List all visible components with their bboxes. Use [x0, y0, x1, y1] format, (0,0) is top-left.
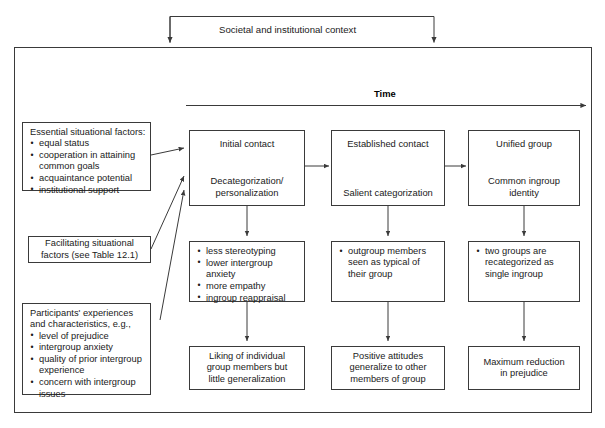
stage-box-established-contact[interactable]: Established contact Salient categorizati…: [331, 130, 445, 206]
list-item: acquaintance potential: [30, 173, 146, 184]
panel-heading-line: Participants' experiences: [30, 308, 146, 319]
result-line: Positive attitudes: [353, 351, 423, 362]
stage-subtitle-line: personalization: [190, 187, 304, 198]
list-item: less stereotyping: [197, 246, 300, 257]
result-box-column-2[interactable]: Positive attitudes generalize to other m…: [331, 346, 445, 390]
list-item: cooperation in attaining common goals: [30, 150, 146, 173]
outcome-bullet-list: outgroup members seen as typical of thei…: [339, 246, 440, 280]
result-line: little generalization: [208, 374, 285, 385]
result-line: Maximum reduction: [483, 357, 564, 368]
list-item: level of prejudice: [30, 331, 146, 342]
diagram-canvas: Societal and institutional context Time …: [0, 0, 605, 428]
result-box-column-1[interactable]: Liking of individual group members but l…: [189, 346, 305, 390]
stage-subtitle-line: identity: [469, 187, 579, 198]
panel-essential-situational-factors[interactable]: Essential situational factors: equal sta…: [22, 122, 151, 191]
stage-subtitle: Salient categorization: [332, 187, 444, 198]
list-item: ingroup reappraisal: [197, 293, 300, 304]
outcome-bullet-list: less stereotyping lower intergroup anxie…: [197, 246, 300, 304]
result-box-column-3[interactable]: Maximum reduction in prejudice: [468, 346, 580, 390]
result-line: group members but: [207, 362, 288, 373]
list-item: institutional support: [30, 185, 146, 196]
list-item: outgroup members seen as typical of thei…: [339, 246, 440, 280]
list-item: two groups are recategorized as single i…: [476, 246, 575, 280]
result-line: generalize to other: [349, 362, 426, 373]
list-item: concern with intergroup issues: [30, 377, 146, 400]
result-line: in prejudice: [500, 368, 548, 379]
time-axis-label: Time: [374, 88, 396, 99]
stage-subtitle: Decategorization/ personalization: [190, 175, 304, 198]
stage-subtitle: Common ingroup identity: [469, 175, 579, 198]
list-item: quality of prior intergroup experience: [30, 354, 146, 377]
panel-facilitating-situational-factors[interactable]: Facilitating situational factors (see Ta…: [28, 236, 151, 263]
societal-context-label: Societal and institutional context: [219, 24, 356, 35]
panel-participants-experiences[interactable]: Participants' experiences and characteri…: [22, 303, 151, 395]
result-line: Liking of individual: [209, 351, 285, 362]
panel-line: factors (see Table 12.1): [41, 250, 138, 261]
stage-subtitle-line: Salient categorization: [332, 187, 444, 198]
list-item: lower intergroup anxiety: [197, 258, 300, 281]
stage-title: Unified group: [469, 138, 579, 149]
stage-subtitle-line: Decategorization/: [190, 175, 304, 186]
outcome-box-column-2[interactable]: outgroup members seen as typical of thei…: [331, 241, 445, 302]
stage-title: Established contact: [332, 138, 444, 149]
stage-title: Initial contact: [190, 138, 304, 149]
stage-box-initial-contact[interactable]: Initial contact Decategorization/ person…: [189, 130, 305, 206]
panel-line: Facilitating situational: [45, 238, 134, 249]
panel-heading-line: and characteristics, e.g.,: [30, 319, 146, 330]
result-line: members of group: [350, 374, 425, 385]
outcome-box-column-1[interactable]: less stereotyping lower intergroup anxie…: [189, 241, 305, 302]
list-item: more empathy: [197, 281, 300, 292]
panel-bullet-list: level of prejudice intergroup anxiety qu…: [30, 331, 146, 400]
panel-bullet-list: equal status cooperation in attaining co…: [30, 138, 146, 196]
outcome-box-column-3[interactable]: two groups are recategorized as single i…: [468, 241, 580, 302]
list-item: intergroup anxiety: [30, 342, 146, 353]
panel-heading: Essential situational factors:: [30, 127, 146, 138]
outcome-bullet-list: two groups are recategorized as single i…: [476, 246, 575, 280]
stage-subtitle-line: Common ingroup: [469, 175, 579, 186]
list-item: equal status: [30, 138, 146, 149]
stage-box-unified-group[interactable]: Unified group Common ingroup identity: [468, 130, 580, 206]
